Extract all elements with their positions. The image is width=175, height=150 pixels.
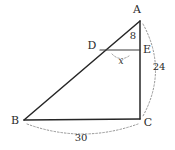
segment-ab [24, 21, 140, 120]
vertex-label-e: E [143, 43, 151, 56]
measure-label-ec: 24 [153, 61, 166, 72]
vertex-label-b: B [11, 114, 19, 127]
segment-bc [24, 119, 140, 120]
geometry-canvas: A B C D E 8 24 30 x [0, 0, 175, 150]
measure-label-bc: 30 [75, 132, 88, 143]
vertex-label-c: C [144, 116, 152, 129]
geometry-figure: A B C D E 8 24 30 x [0, 0, 175, 150]
vertex-label-d: D [88, 39, 97, 52]
measure-label-ae: 8 [130, 30, 136, 41]
angle-label-x: x [118, 56, 123, 66]
vertex-label-a: A [132, 3, 142, 16]
